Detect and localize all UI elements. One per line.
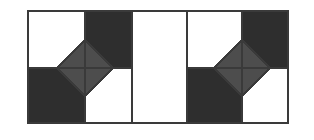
figure-root <box>0 0 314 140</box>
right-panel <box>187 11 288 123</box>
middle-panel <box>132 11 187 123</box>
geometric-tiling-svg <box>0 0 314 140</box>
left-panel <box>28 11 132 123</box>
middle-panel-rect <box>132 11 187 123</box>
